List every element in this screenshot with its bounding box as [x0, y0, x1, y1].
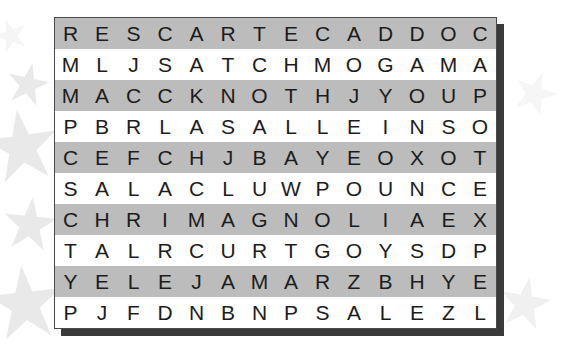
grid-letter[interactable]: J — [87, 302, 119, 323]
grid-letter[interactable]: E — [87, 271, 119, 292]
grid-letter[interactable]: U — [213, 240, 245, 261]
grid-letter[interactable]: N — [402, 178, 434, 199]
grid-letter[interactable]: A — [402, 54, 434, 75]
grid-letter[interactable]: R — [150, 240, 182, 261]
grid-letter[interactable]: E — [87, 23, 119, 44]
grid-letter[interactable]: D — [150, 302, 182, 323]
grid-letter[interactable]: A — [87, 85, 119, 106]
grid-letter[interactable]: A — [181, 54, 213, 75]
grid-letter[interactable]: S — [307, 302, 339, 323]
grid-letter[interactable]: O — [339, 178, 371, 199]
grid-letter[interactable]: D — [370, 23, 402, 44]
grid-letter[interactable]: A — [150, 178, 182, 199]
grid-letter[interactable]: H — [276, 54, 308, 75]
grid-letter[interactable]: S — [213, 116, 245, 137]
grid-letter[interactable]: O — [433, 23, 465, 44]
grid-letter[interactable]: J — [339, 85, 371, 106]
grid-letter[interactable]: S — [402, 240, 434, 261]
grid-letter[interactable]: C — [118, 85, 150, 106]
grid-letter[interactable]: X — [465, 209, 497, 230]
grid-letter[interactable]: E — [402, 302, 434, 323]
grid-letter[interactable]: A — [276, 147, 308, 168]
grid-letter[interactable]: A — [465, 54, 497, 75]
grid-letter[interactable]: C — [150, 147, 182, 168]
grid-letter[interactable]: M — [181, 209, 213, 230]
grid-letter[interactable]: N — [402, 116, 434, 137]
grid-letter[interactable]: O — [370, 147, 402, 168]
grid-letter[interactable]: C — [181, 178, 213, 199]
grid-letter[interactable]: E — [150, 271, 182, 292]
grid-letter[interactable]: R — [307, 271, 339, 292]
grid-letter[interactable]: S — [55, 178, 87, 199]
grid-letter[interactable]: L — [118, 271, 150, 292]
grid-letter[interactable]: S — [118, 23, 150, 44]
grid-letter[interactable]: H — [402, 271, 434, 292]
grid-letter[interactable]: M — [55, 54, 87, 75]
grid-letter[interactable]: E — [339, 147, 371, 168]
grid-letter[interactable]: G — [307, 240, 339, 261]
grid-letter[interactable]: A — [339, 23, 371, 44]
grid-letter[interactable]: E — [433, 209, 465, 230]
grid-letter[interactable]: C — [150, 23, 182, 44]
grid-letter[interactable]: L — [87, 54, 119, 75]
grid-letter[interactable]: M — [307, 54, 339, 75]
grid-letter[interactable]: S — [150, 54, 182, 75]
grid-letter[interactable]: O — [402, 85, 434, 106]
grid-letter[interactable]: A — [213, 271, 245, 292]
grid-letter[interactable]: R — [244, 240, 276, 261]
grid-letter[interactable]: U — [244, 178, 276, 199]
grid-letter[interactable]: R — [118, 209, 150, 230]
grid-letter[interactable]: A — [87, 178, 119, 199]
grid-letter[interactable]: D — [402, 23, 434, 44]
grid-letter[interactable]: C — [465, 23, 497, 44]
grid-letter[interactable]: O — [339, 240, 371, 261]
grid-letter[interactable]: A — [87, 240, 119, 261]
grid-letter[interactable]: P — [55, 302, 87, 323]
grid-letter[interactable]: L — [339, 209, 371, 230]
grid-letter[interactable]: C — [181, 240, 213, 261]
grid-letter[interactable]: N — [244, 302, 276, 323]
grid-letter[interactable]: X — [402, 147, 434, 168]
grid-letter[interactable]: N — [213, 85, 245, 106]
grid-letter[interactable]: A — [339, 302, 371, 323]
grid-letter[interactable]: T — [276, 85, 308, 106]
grid-letter[interactable]: F — [118, 302, 150, 323]
grid-letter[interactable]: B — [370, 271, 402, 292]
grid-letter[interactable]: Y — [433, 271, 465, 292]
grid-letter[interactable]: U — [370, 178, 402, 199]
grid-letter[interactable]: A — [402, 209, 434, 230]
grid-letter[interactable]: B — [87, 116, 119, 137]
grid-letter[interactable]: B — [244, 147, 276, 168]
grid-letter[interactable]: L — [307, 116, 339, 137]
grid-letter[interactable]: P — [465, 85, 497, 106]
grid-letter[interactable]: Z — [339, 271, 371, 292]
grid-letter[interactable]: R — [118, 116, 150, 137]
grid-letter[interactable]: A — [181, 23, 213, 44]
grid-letter[interactable]: R — [55, 23, 87, 44]
grid-letter[interactable]: P — [465, 240, 497, 261]
grid-letter[interactable]: Z — [433, 302, 465, 323]
grid-letter[interactable]: O — [433, 147, 465, 168]
grid-letter[interactable]: E — [87, 147, 119, 168]
grid-letter[interactable]: I — [150, 209, 182, 230]
grid-letter[interactable]: L — [370, 302, 402, 323]
grid-letter[interactable]: L — [118, 178, 150, 199]
grid-letter[interactable]: H — [181, 147, 213, 168]
grid-letter[interactable]: E — [339, 116, 371, 137]
grid-letter[interactable]: J — [181, 271, 213, 292]
grid-letter[interactable]: D — [433, 240, 465, 261]
grid-letter[interactable]: C — [244, 54, 276, 75]
grid-letter[interactable]: N — [181, 302, 213, 323]
grid-letter[interactable]: M — [244, 271, 276, 292]
grid-letter[interactable]: G — [370, 54, 402, 75]
grid-letter[interactable]: T — [276, 240, 308, 261]
grid-letter[interactable]: A — [276, 271, 308, 292]
grid-letter[interactable]: L — [118, 240, 150, 261]
grid-letter[interactable]: F — [118, 147, 150, 168]
grid-letter[interactable]: Y — [307, 147, 339, 168]
grid-letter[interactable]: T — [213, 54, 245, 75]
grid-letter[interactable]: I — [370, 116, 402, 137]
grid-letter[interactable]: E — [276, 23, 308, 44]
grid-letter[interactable]: H — [87, 209, 119, 230]
grid-letter[interactable]: A — [181, 116, 213, 137]
